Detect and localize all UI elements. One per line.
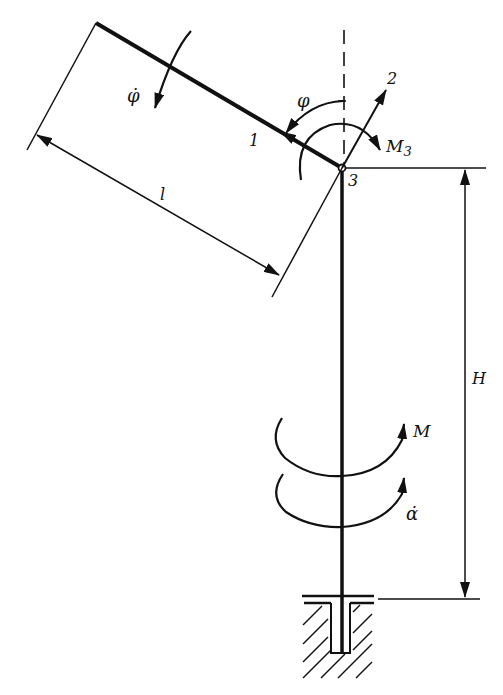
extension-line-left <box>27 23 96 150</box>
moment-M3-label: M3 <box>385 136 412 159</box>
phi-angle-arc <box>286 101 343 133</box>
length-dimension-line <box>37 135 279 275</box>
fixed-base-support <box>302 596 374 678</box>
axis-2-arrow <box>342 90 386 168</box>
phi-dot-label: φ̇ <box>127 85 140 106</box>
phi-label: φ <box>297 90 310 111</box>
extension-line-right <box>272 168 342 297</box>
length-label: l <box>160 185 165 204</box>
axis-1-arrow <box>281 132 300 143</box>
alpha-dot-loop <box>276 474 404 527</box>
node-3-label: 3 <box>348 171 358 190</box>
axis-2-label: 2 <box>386 69 397 88</box>
mechanism-diagram: l φ̇ 1 2 φ M3 3 H M α̇ <box>0 0 503 695</box>
moment-M-loop <box>276 418 404 476</box>
height-label: H <box>471 369 487 388</box>
axis-1-label: 1 <box>249 131 259 150</box>
alpha-dot-label: α̇ <box>406 503 418 524</box>
moment-M-label: M <box>412 421 431 441</box>
